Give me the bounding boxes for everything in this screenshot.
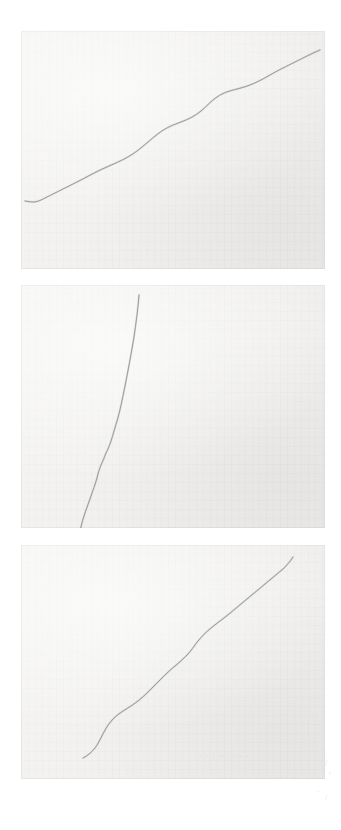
curve-line-middle: [80, 295, 139, 528]
photo-panel-middle: [21, 285, 325, 528]
margin-mark-1: /: [325, 760, 327, 768]
curve-halo-middle: [80, 295, 139, 528]
faint-annotation-smudge: . . . ... . . .: [199, 751, 249, 759]
margin-mark-2: ': [329, 772, 330, 780]
curve-halo-top: [25, 50, 320, 202]
photo-panel-top: [21, 31, 325, 269]
photo-panel-bottom: . . . ... . . .: [21, 545, 325, 779]
curve-graphic-top: [21, 31, 325, 269]
curve-graphic-bottom: [21, 545, 325, 779]
margin-mark-4: /: [325, 795, 327, 803]
curve-graphic-middle: [21, 285, 325, 528]
margin-mark-3: .: [317, 786, 319, 794]
scanned-page: . . . ... . . . / ' . /: [0, 0, 341, 830]
curve-line-bottom: [83, 557, 293, 758]
